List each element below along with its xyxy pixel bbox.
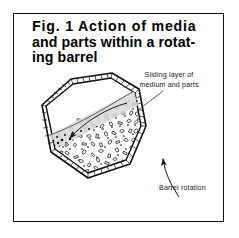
barrel-rotation-label: Barrel rotation (159, 184, 206, 192)
figure-root: Fig. 1 Action of media and parts within … (0, 0, 239, 238)
barrel-diagram: Sliding layer of medium and parts Barrel… (13, 13, 224, 222)
barrel-rotation-annotation: Barrel rotation (159, 159, 206, 197)
sliding-layer-label-line-1: Sliding layer of (145, 71, 194, 79)
sliding-layer-annotation: Sliding layer of medium and parts (137, 71, 199, 111)
sliding-layer-label-line-2: medium and parts (139, 81, 198, 89)
